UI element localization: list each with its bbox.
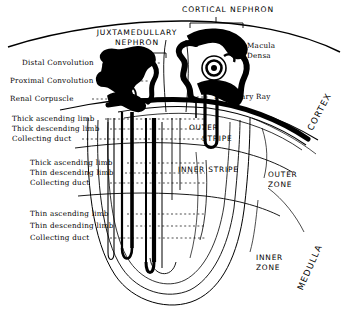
- header-cortical-nephron: CORTICAL NEPHRON: [168, 6, 288, 14]
- label-distal-convolution: Distal Convolution: [22, 59, 94, 66]
- nephron-diagram: CORTICAL NEPHRON JUXTAMEDULLARY NEPHRON …: [0, 0, 347, 333]
- label-inner-zone-thin-descending-limb: Thin descending limb: [30, 222, 114, 229]
- label-outer-stripe-collecting-duct: Collecting duct: [12, 135, 71, 142]
- juxtamedullary-lower-mass: [108, 93, 145, 112]
- label-renal-corpuscle: Renal Corpuscle: [10, 95, 74, 102]
- label-outer-zone-line1: OUTER: [268, 171, 298, 178]
- outer-zone-leader: [262, 128, 267, 178]
- medulla-zone-leader: [268, 188, 304, 232]
- thin-limb-hairpin-bend: [108, 252, 114, 260]
- label-inner-stripe: INNER STRIPE: [178, 166, 239, 173]
- label-inner-zone-line2: ZONE: [256, 264, 280, 271]
- label-macula-densa-line1: Macula: [247, 42, 275, 49]
- label-inner-zone-thin-ascending-limb: Thin ascending limb: [30, 210, 109, 217]
- label-inner-stripe-collecting-duct: Collecting duct: [30, 179, 89, 186]
- inner-zone-leader: [250, 200, 258, 252]
- label-outer-stripe-line1: OUTER: [189, 124, 219, 131]
- label-outer-stripe-thick-descending-limb: Thick descending limb: [12, 125, 100, 132]
- label-inner-zone-line1: INNER: [256, 254, 283, 261]
- collecting-duct-tip: [146, 262, 154, 273]
- label-inner-stripe-thin-descending-limb: Thin descending limb: [30, 169, 114, 176]
- label-outer-zone-line2: ZONE: [268, 181, 292, 188]
- label-inner-stripe-thick-ascending-limb: Thick ascending limb: [30, 159, 113, 166]
- cortical-glomerulus-core: [211, 65, 217, 71]
- label-inner-zone-collecting-duct: Collecting duct: [30, 234, 89, 241]
- leader-lines-inner-zone-group: [110, 214, 205, 238]
- label-outer-stripe-line2: STRIPE: [202, 135, 232, 142]
- medullary-pyramid-inner: [98, 120, 240, 294]
- label-outer-stripe-thick-ascending-limb: Thick ascending limb: [12, 115, 95, 122]
- leader-lines-outer-stripe-group: [82, 119, 205, 139]
- label-proximal-convolution: Proximal Convolution: [10, 77, 94, 84]
- header-juxtamedullary-nephron-line1: JUXTAMEDULLARY: [78, 29, 196, 37]
- header-juxtamedullary-nephron-line2: NEPHRON: [78, 39, 196, 47]
- label-macula-densa-line2: Densa: [247, 52, 271, 59]
- label-medullary-ray: Medullary Ray: [214, 93, 271, 100]
- medullary-pyramid-outer: [88, 118, 250, 305]
